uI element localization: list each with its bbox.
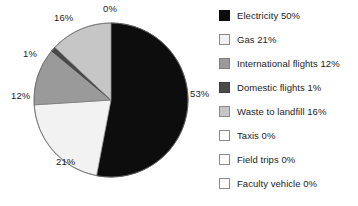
legend-item-label: Faculty vehicle 0% [237,178,317,189]
legend-item-label: Domestic flights 1% [237,82,321,93]
pie-label-gas: 21% [56,156,75,167]
legend-swatch-icon [219,10,230,21]
legend-item-label: Field trips 0% [237,154,295,165]
legend-swatch-icon [219,106,230,117]
pie-label-waste-to-landfill: 16% [54,12,73,23]
pie-label-domestic-flights: 1% [23,48,37,59]
legend-swatch-icon [219,58,230,69]
legend-swatch-icon [219,154,230,165]
legend-item[interactable]: Domestic flights 1% [219,81,358,94]
legend-item[interactable]: Field trips 0% [219,153,358,166]
legend-item[interactable]: Electricity 50% [219,9,358,22]
legend-item[interactable]: Gas 21% [219,33,358,46]
legend-item-label: International flights 12% [237,58,340,69]
pie-label-electricity-right: 53% [190,88,209,99]
pie-plot-area: 0%53%21%12%1%16% [0,0,210,206]
legend-item[interactable]: International flights 12% [219,57,358,70]
legend-item-label: Taxis 0% [237,130,275,141]
pie-chart-figure: 0%53%21%12%1%16% Electricity 50%Gas 21%I… [0,0,358,206]
legend-item-label: Waste to landfill 16% [237,106,326,117]
legend-item-label: Gas 21% [237,34,276,45]
legend-swatch-icon [219,82,230,93]
pie-svg [0,0,210,206]
pie-label-international-flights: 12% [11,90,30,101]
legend-swatch-icon [219,130,230,141]
legend-item[interactable]: Waste to landfill 16% [219,105,358,118]
pie-label-zero-top: 0% [103,3,117,14]
legend-swatch-icon [219,34,230,45]
legend-item[interactable]: Taxis 0% [219,129,358,142]
legend-item-label: Electricity 50% [237,10,300,21]
legend-swatch-icon [219,178,230,189]
chart-legend: Electricity 50%Gas 21%International flig… [219,9,358,201]
legend-item[interactable]: Faculty vehicle 0% [219,177,358,190]
